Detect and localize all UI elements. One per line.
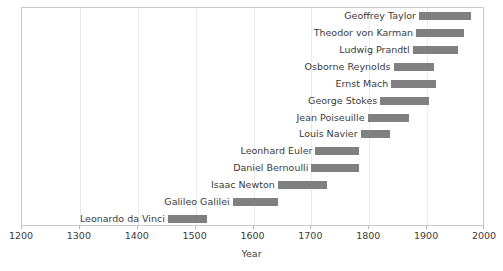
x-tick-mark bbox=[21, 226, 22, 229]
timeline-row[interactable]: Osborne Reynolds bbox=[22, 59, 483, 75]
timeline-row[interactable]: Isaac Newton bbox=[22, 177, 483, 193]
timeline-row[interactable]: Ernst Mach bbox=[22, 76, 483, 92]
timeline-row[interactable]: George Stokes bbox=[22, 93, 483, 109]
timeline-row[interactable]: Jean Poiseuille bbox=[22, 110, 483, 126]
timeline-bar[interactable] bbox=[233, 198, 278, 206]
x-tick-mark bbox=[426, 226, 427, 229]
timeline-row[interactable]: Galileo Galilei bbox=[22, 194, 483, 210]
timeline-bar[interactable] bbox=[380, 97, 429, 105]
timeline-row-label: Isaac Newton bbox=[22, 177, 278, 193]
timeline-row-label: Ernst Mach bbox=[22, 76, 391, 92]
x-tick-label: 1400 bbox=[125, 230, 149, 241]
timeline-row-label: Leonhard Euler bbox=[22, 143, 315, 159]
timeline-row-label: Jean Poiseuille bbox=[22, 110, 368, 126]
timeline-row[interactable]: Leonhard Euler bbox=[22, 143, 483, 159]
timeline-bar[interactable] bbox=[391, 80, 436, 88]
x-tick-label: 1700 bbox=[298, 230, 322, 241]
timeline-bar[interactable] bbox=[315, 147, 359, 155]
x-tick-mark bbox=[195, 226, 196, 229]
timeline-row[interactable]: Ludwig Prandtl bbox=[22, 42, 483, 58]
timeline-row[interactable]: Geoffrey Taylor bbox=[22, 8, 483, 24]
timeline-row-label: Theodor von Karman bbox=[22, 25, 416, 41]
timeline-bar[interactable] bbox=[413, 46, 458, 54]
timeline-row-label: Louis Navier bbox=[22, 126, 361, 142]
x-tick-label: 1200 bbox=[9, 230, 33, 241]
x-tick-label: 1800 bbox=[356, 230, 380, 241]
x-tick-label: 1600 bbox=[240, 230, 264, 241]
plot-area: Geoffrey TaylorTheodor von KarmanLudwig … bbox=[21, 7, 484, 226]
timeline-row[interactable]: Louis Navier bbox=[22, 126, 483, 142]
timeline-bar[interactable] bbox=[416, 29, 463, 37]
timeline-row[interactable]: Daniel Bernoulli bbox=[22, 160, 483, 176]
x-axis: 120013001400150016001700180019002000 bbox=[21, 226, 484, 246]
timeline-row[interactable]: Leonardo da Vinci bbox=[22, 211, 483, 227]
x-tick-mark bbox=[483, 226, 484, 229]
x-tick-label: 1900 bbox=[414, 230, 438, 241]
timeline-bar[interactable] bbox=[311, 164, 358, 172]
x-tick-mark bbox=[137, 226, 138, 229]
x-tick-mark bbox=[79, 226, 80, 229]
x-tick-mark bbox=[368, 226, 369, 229]
timeline-row-label: Geoffrey Taylor bbox=[22, 8, 419, 24]
timeline-row-label: Ludwig Prandtl bbox=[22, 42, 413, 58]
timeline-bar[interactable] bbox=[419, 12, 471, 20]
x-tick-label: 2000 bbox=[472, 230, 496, 241]
timeline-row-label: Osborne Reynolds bbox=[22, 59, 394, 75]
timeline-bar[interactable] bbox=[394, 63, 435, 71]
x-tick-mark bbox=[310, 226, 311, 229]
x-tick-label: 1300 bbox=[67, 230, 91, 241]
timeline-bar[interactable] bbox=[278, 181, 327, 189]
timeline-row[interactable]: Theodor von Karman bbox=[22, 25, 483, 41]
timeline-row-label: Leonardo da Vinci bbox=[22, 211, 168, 227]
lifespan-timeline-chart: Geoffrey TaylorTheodor von KarmanLudwig … bbox=[0, 0, 503, 271]
timeline-bar[interactable] bbox=[168, 215, 207, 223]
x-axis-title: Year bbox=[0, 248, 503, 259]
timeline-row-label: George Stokes bbox=[22, 93, 380, 109]
timeline-bar[interactable] bbox=[361, 130, 391, 138]
timeline-row-label: Galileo Galilei bbox=[22, 194, 233, 210]
x-tick-label: 1500 bbox=[183, 230, 207, 241]
timeline-row-label: Daniel Bernoulli bbox=[22, 160, 311, 176]
timeline-bar[interactable] bbox=[368, 114, 410, 122]
x-tick-mark bbox=[253, 226, 254, 229]
